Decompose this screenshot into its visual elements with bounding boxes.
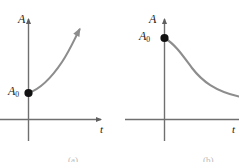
caption-panel-a: (a) bbox=[68, 155, 78, 162]
decay-plot-svg bbox=[119, 0, 239, 162]
panel-exponential-decay: A A0 t bbox=[119, 0, 239, 162]
decay-x-axis-label: t bbox=[232, 124, 235, 135]
panel-exponential-growth: A A0 t bbox=[0, 0, 119, 162]
caption-panel-b: (b) bbox=[203, 155, 214, 162]
decay-y-axis-label: A bbox=[149, 13, 156, 25]
growth-y-axis-label: A bbox=[18, 13, 25, 25]
growth-curve bbox=[29, 30, 80, 94]
growth-initial-point bbox=[24, 89, 32, 97]
growth-a0-subscript: 0 bbox=[15, 90, 19, 99]
figure-canvas: A A0 t A A0 t bbox=[0, 0, 239, 162]
decay-curve bbox=[165, 38, 240, 97]
decay-a0-subscript: 0 bbox=[146, 35, 150, 44]
growth-x-axis-label: t bbox=[100, 124, 103, 135]
growth-initial-value-label: A0 bbox=[8, 85, 19, 98]
decay-initial-value-label: A0 bbox=[139, 30, 150, 43]
decay-initial-point bbox=[160, 34, 168, 42]
